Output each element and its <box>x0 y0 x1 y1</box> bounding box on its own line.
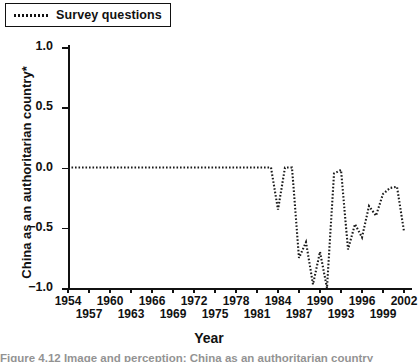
chart-legend: Survey questions <box>5 3 171 27</box>
y-axis-tick: −0.5 <box>62 228 68 230</box>
x-axis-tick-label: 1981 <box>244 307 271 321</box>
x-axis-tick-label: 1996 <box>349 294 376 308</box>
x-axis-tick-label: 2002 <box>391 294 418 308</box>
x-axis-tick-label: 1999 <box>370 307 397 321</box>
y-axis-tick: 0.0 <box>62 168 68 170</box>
x-axis-tick-label: 1963 <box>118 307 145 321</box>
x-axis-tick <box>403 288 405 293</box>
x-axis-tick-label: 1987 <box>286 307 313 321</box>
x-axis-tick <box>172 288 174 293</box>
x-axis-tick <box>319 288 321 293</box>
x-axis-tick-label: 1966 <box>139 294 166 308</box>
x-axis-tick-label: 1978 <box>223 294 250 308</box>
x-axis-tick <box>235 288 237 293</box>
y-axis-tick: 0.5 <box>62 107 68 109</box>
x-axis-tick-label: 1954 <box>55 294 82 308</box>
x-axis-tick <box>382 288 384 293</box>
x-axis-tick <box>298 288 300 293</box>
x-axis-tick-label: 1984 <box>265 294 292 308</box>
legend-label-survey-questions: Survey questions <box>56 8 162 22</box>
x-axis-tick <box>214 288 216 293</box>
x-axis-tick <box>340 288 342 293</box>
x-axis-tick <box>193 288 195 293</box>
series-survey-questions <box>68 47 411 288</box>
x-axis-tick <box>277 288 279 293</box>
x-axis-tick <box>67 288 69 293</box>
x-axis-tick-label: 1993 <box>328 307 355 321</box>
x-axis-tick <box>256 288 258 293</box>
y-axis-tick-label: −1.0 <box>28 280 53 294</box>
plot-area: 1.00.50.0−0.5−1.0 <box>68 47 411 288</box>
y-axis-title: China as an authoritarian country* <box>19 43 34 303</box>
x-axis-tick <box>88 288 90 293</box>
x-axis-tick-label: 1975 <box>202 307 229 321</box>
x-axis-tick-label: 1972 <box>181 294 208 308</box>
y-axis-tick-label: 0.5 <box>36 99 53 113</box>
y-axis-tick-label: 1.0 <box>36 39 53 53</box>
x-axis-tick-label: 1957 <box>76 307 103 321</box>
figure-caption: Figure 4.12 Image and perception: China … <box>0 352 418 362</box>
x-axis-tick <box>151 288 153 293</box>
x-axis-tick <box>361 288 363 293</box>
y-axis-tick: 1.0 <box>62 47 68 49</box>
x-axis-tick <box>130 288 132 293</box>
y-axis-tick-label: −0.5 <box>28 220 53 234</box>
y-axis-tick-label: 0.0 <box>36 160 53 174</box>
x-axis-tick-label: 1969 <box>160 307 187 321</box>
x-axis-tick-label: 1990 <box>307 294 334 308</box>
x-axis-tick-label: 1960 <box>97 294 124 308</box>
x-axis-tick <box>109 288 111 293</box>
legend-line-swatch-survey-questions <box>14 14 48 17</box>
x-axis-title: Year <box>0 330 418 346</box>
series-line-survey-questions <box>68 168 404 289</box>
